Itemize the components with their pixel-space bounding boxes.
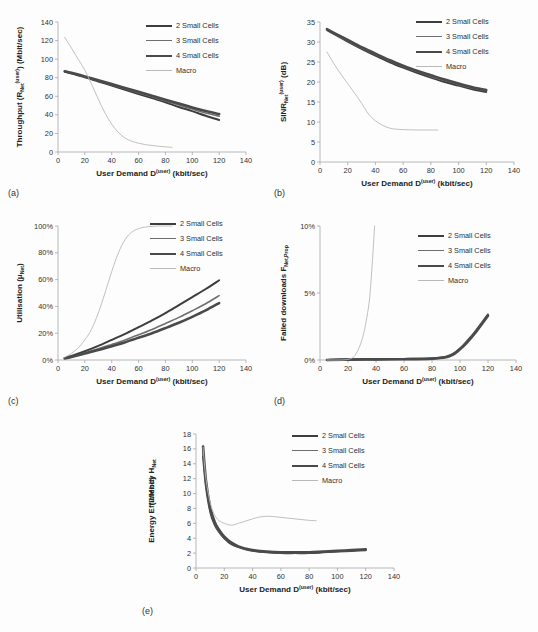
chart-panel-e: 020406080100120140024681012141618User De… xyxy=(134,418,414,618)
y-tick-label: 60 xyxy=(45,92,53,101)
legend-line-swatch xyxy=(150,268,176,269)
legend-item-4[interactable]: Macro xyxy=(418,273,491,288)
panel-label-e: (e) xyxy=(142,606,153,616)
y-tick-label: 20 xyxy=(307,78,315,87)
x-tick-label: 20 xyxy=(81,364,89,373)
x-tick-label: 20 xyxy=(220,572,228,581)
panel-label-c: (c) xyxy=(8,396,19,406)
legend-e: 2 Small Cells3 Small Cells4 Small CellsM… xyxy=(292,428,365,488)
series-line-1 xyxy=(65,280,219,358)
chart-panel-c: 0204060801001201400%20%40%60%80%100%User… xyxy=(0,210,268,406)
y-tick-label: 5 xyxy=(311,138,315,147)
legend-item-2[interactable]: 3 Small Cells xyxy=(418,243,491,258)
legend-label: 2 Small Cells xyxy=(180,219,223,228)
x-axis-title: User Demand D(user) (kbit/sec) xyxy=(96,168,208,178)
legend-label: Macro xyxy=(322,476,342,485)
x-tick-label: 100 xyxy=(331,572,343,581)
y-tick-label: 4 xyxy=(187,534,191,543)
panel-label-a: (a) xyxy=(8,188,19,198)
y-tick-label: 120 xyxy=(41,36,53,45)
y-tick-label: 0 xyxy=(187,564,191,573)
x-tick-label: 120 xyxy=(213,364,225,373)
legend-a: 2 Small Cells3 Small Cells4 Small CellsM… xyxy=(146,18,219,78)
legend-label: 4 Small Cells xyxy=(176,51,219,60)
legend-line-swatch xyxy=(146,70,172,71)
legend-label: Macro xyxy=(176,66,196,75)
chart-panel-b: 02040608010012014005101520253035User Dem… xyxy=(268,6,536,202)
y-axis-title: Failed downloads FNet,Prop xyxy=(279,245,289,341)
x-tick-label: 20 xyxy=(344,166,352,175)
y-tick-label: 16 xyxy=(183,444,191,453)
y-tick-label: 0 xyxy=(311,158,315,167)
legend-item-3[interactable]: 4 Small Cells xyxy=(418,258,491,273)
legend-item-2[interactable]: 3 Small Cells xyxy=(150,231,223,246)
legend-item-1[interactable]: 2 Small Cells xyxy=(150,216,223,231)
panel-label-d: (d) xyxy=(274,396,285,406)
y-tick-label: 10 xyxy=(183,489,191,498)
legend-item-2[interactable]: 3 Small Cells xyxy=(146,33,219,48)
legend-line-swatch xyxy=(150,253,176,255)
x-tick-label: 60 xyxy=(134,364,142,373)
legend-item-3[interactable]: 4 Small Cells xyxy=(150,246,223,261)
series-line-2 xyxy=(327,315,488,360)
legend-item-3[interactable]: 4 Small Cells xyxy=(292,458,365,473)
legend-label: 2 Small Cells xyxy=(446,17,489,26)
chart-e-svg: 020406080100120140024681012141618User De… xyxy=(134,418,414,618)
x-axis-title: User Demand D(user) (kbit/sec) xyxy=(362,376,474,386)
legend-item-4[interactable]: Macro xyxy=(292,473,365,488)
y-tick-label: 80 xyxy=(45,73,53,82)
y-tick-label: 20% xyxy=(38,329,53,338)
x-tick-label: 0 xyxy=(318,166,322,175)
x-axis-title: User Demand D(user) (kbit/sec) xyxy=(361,178,473,188)
legend-item-2[interactable]: 3 Small Cells xyxy=(416,29,489,44)
y-tick-label: 25 xyxy=(307,58,315,67)
legend-item-3[interactable]: 4 Small Cells xyxy=(146,48,219,63)
x-tick-label: 40 xyxy=(371,166,379,175)
x-tick-label: 40 xyxy=(108,156,116,165)
y-axis-title-group: Utilisation (μNet) xyxy=(15,263,25,323)
x-tick-label: 80 xyxy=(161,364,169,373)
legend-line-swatch xyxy=(418,250,444,251)
legend-line-swatch xyxy=(418,280,444,281)
series-line-1 xyxy=(65,72,219,120)
series-line-3 xyxy=(327,316,488,360)
y-tick-label: 10 xyxy=(307,118,315,127)
y-axis-title: SINRNet(user) (dB) xyxy=(278,62,289,122)
y-tick-label: 100% xyxy=(34,222,53,231)
legend-item-2[interactable]: 3 Small Cells xyxy=(292,443,365,458)
chart-panel-d: 0204060801001201400%5%10%User Demand D(u… xyxy=(268,210,536,406)
x-axis-title: User Demand D(user) (kbit/sec) xyxy=(239,584,351,594)
legend-item-3[interactable]: 4 Small Cells xyxy=(416,44,489,59)
y-tick-label: 6 xyxy=(187,519,191,528)
x-tick-label: 140 xyxy=(508,166,520,175)
legend-line-swatch xyxy=(418,265,444,267)
x-tick-label: 80 xyxy=(427,166,435,175)
chart-panel-a: 020406080100120140020406080100120140User… xyxy=(0,6,268,202)
legend-label: Macro xyxy=(448,276,468,285)
legend-item-1[interactable]: 2 Small Cells xyxy=(416,14,489,29)
chart-b-svg: 02040608010012014005101520253035User Dem… xyxy=(268,6,536,202)
x-tick-label: 100 xyxy=(454,364,466,373)
legend-item-1[interactable]: 2 Small Cells xyxy=(292,428,365,443)
legend-line-swatch xyxy=(416,66,442,67)
x-tick-label: 0 xyxy=(194,572,198,581)
legend-line-swatch xyxy=(146,25,172,27)
x-tick-label: 0 xyxy=(318,364,322,373)
legend-label: 4 Small Cells xyxy=(180,249,223,258)
x-tick-label: 100 xyxy=(452,166,464,175)
legend-label: 3 Small Cells xyxy=(180,234,223,243)
chart-d-svg: 0204060801001201400%5%10%User Demand D(u… xyxy=(268,210,536,406)
y-tick-label: 30 xyxy=(307,38,315,47)
legend-item-4[interactable]: Macro xyxy=(416,59,489,74)
y-tick-label: 10% xyxy=(300,222,315,231)
x-tick-label: 120 xyxy=(213,156,225,165)
legend-item-1[interactable]: 2 Small Cells xyxy=(146,18,219,33)
legend-item-4[interactable]: Macro xyxy=(150,261,223,276)
legend-d: 2 Small Cells3 Small Cells4 Small CellsM… xyxy=(418,228,491,288)
series-line-4 xyxy=(327,226,375,360)
legend-line-swatch xyxy=(418,235,444,237)
legend-item-4[interactable]: Macro xyxy=(146,63,219,78)
legend-item-1[interactable]: 2 Small Cells xyxy=(418,228,491,243)
x-tick-label: 60 xyxy=(277,572,285,581)
panel-label-b: (b) xyxy=(274,188,285,198)
